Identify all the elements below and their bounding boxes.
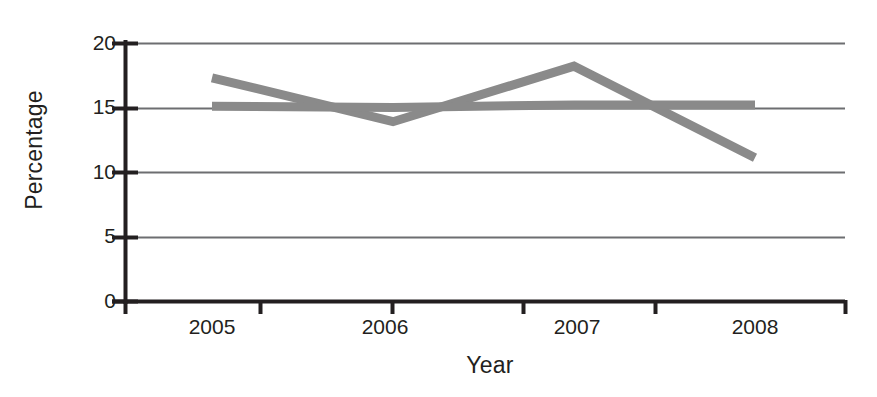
chart-container: Percentage Year 20 15 10 5 0 2005 2006 2…: [0, 0, 877, 397]
line-series-1: [212, 66, 755, 158]
line-series-2: [212, 105, 755, 108]
plot-area: [0, 0, 877, 397]
series-layer: [212, 66, 755, 158]
